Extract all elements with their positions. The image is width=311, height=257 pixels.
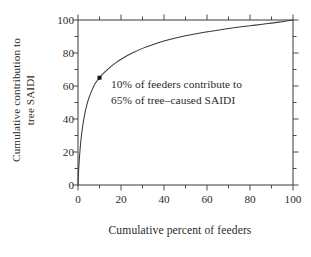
x-tick-label-80: 80: [230, 193, 270, 205]
x-tick-label-0: 0: [58, 193, 98, 205]
x-tick-label-40: 40: [144, 193, 184, 205]
annotation-line-2: 65% of tree–caused SAIDI: [111, 93, 242, 109]
plot-area: [0, 0, 311, 257]
x-tick-label-20: 20: [101, 193, 141, 205]
data-markers: [98, 76, 102, 80]
highlight-point-marker: [98, 76, 102, 80]
chart-annotation: 10% of feeders contribute to 65% of tree…: [111, 77, 242, 108]
x-tick-label-100: 100: [273, 193, 311, 205]
chart-figure: Cumulative contribution to tree SAIDI 02…: [0, 0, 311, 257]
x-tick-label-60: 60: [187, 193, 227, 205]
x-axis-tick-labels: 020406080100: [0, 193, 311, 211]
annotation-line-1: 10% of feeders contribute to: [111, 77, 242, 93]
x-axis-label: Cumulative percent of feeders: [60, 224, 300, 237]
